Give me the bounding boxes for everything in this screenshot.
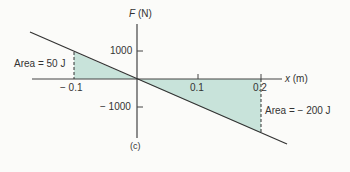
x-axis-symbol: x xyxy=(285,73,290,84)
tick-label-02: 0.2 xyxy=(253,82,267,93)
caption: (c) xyxy=(130,141,141,151)
area-right-label: Area = − 200 J xyxy=(265,105,331,116)
y-axis-symbol: F xyxy=(129,8,135,19)
x-axis-label: x (m) xyxy=(285,73,308,84)
tick-label-1000: 1000 xyxy=(110,45,132,56)
y-axis-label: F (N) xyxy=(129,8,152,19)
force-displacement-diagram xyxy=(0,0,350,172)
tick-label-01: 0.1 xyxy=(190,82,204,93)
area-left-label: Area = 50 J xyxy=(14,58,65,69)
tick-label-neg01: − 0.1 xyxy=(60,82,83,93)
x-axis-unit: (m) xyxy=(293,73,308,84)
y-axis-unit: (N) xyxy=(138,8,152,19)
tick-label-neg1000: − 1000 xyxy=(100,101,131,112)
